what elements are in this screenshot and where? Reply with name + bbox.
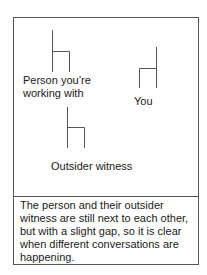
person-label-line1: Person you’re xyxy=(23,74,91,87)
person-label: Person you’re working with xyxy=(23,74,91,100)
witness-label: Outsider witness xyxy=(51,160,132,173)
you-label: You xyxy=(134,95,153,108)
caption-text: The person and their outsider witness ar… xyxy=(20,199,198,264)
chair-icon-witness xyxy=(68,107,85,148)
chair-icon-person xyxy=(53,30,70,72)
person-label-line2: working with xyxy=(23,87,91,100)
chair-icon-you xyxy=(140,47,157,88)
